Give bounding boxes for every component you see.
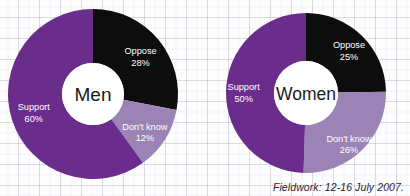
donut-center-label-women: Women [276, 84, 336, 104]
donut-chart-men: Oppose28%Don't know12%Support60%Men [8, 9, 178, 179]
donut-chart-men-svg: Oppose28%Don't know12%Support60%Men [8, 9, 178, 179]
chart-canvas: Oppose28%Don't know12%Support60%Men Oppo… [0, 0, 410, 196]
donut-chart-women: Oppose25%Don't know26%Support50%Women [226, 13, 386, 173]
fieldwork-footnote: Fieldwork: 12-16 July 2007. [273, 181, 404, 193]
donut-center-label-men: Men [75, 84, 112, 105]
donut-chart-women-svg: Oppose25%Don't know26%Support50%Women [226, 13, 386, 173]
